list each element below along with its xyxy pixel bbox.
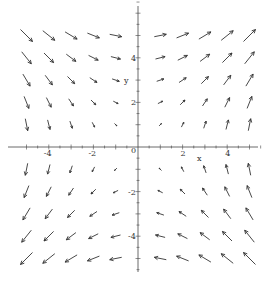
x-tick-label: -4 <box>44 149 52 158</box>
vector-arrow <box>24 163 27 175</box>
vector-arrow <box>158 101 163 103</box>
vector-arrow <box>92 122 94 127</box>
vector-arrow <box>177 33 189 38</box>
vector-arrow <box>247 96 252 108</box>
vector-arrow <box>155 234 165 237</box>
vector-arrow <box>24 96 29 108</box>
vector-arrow <box>66 54 76 61</box>
vector-arrow <box>46 98 51 108</box>
vector-arrow <box>157 79 164 82</box>
vector-arrow <box>91 100 96 105</box>
vector-arrow <box>248 119 251 131</box>
vector-arrow <box>247 163 250 175</box>
vector-arrow <box>158 190 163 192</box>
vector-arrow <box>45 75 52 85</box>
y-tick-label: 4 <box>131 54 136 63</box>
vector-arrow <box>200 54 210 61</box>
vector-arrow <box>112 79 119 82</box>
vector-arrow <box>202 99 207 106</box>
vector-arrow <box>114 123 116 125</box>
vector-arrow <box>45 209 52 219</box>
vector-arrow <box>90 211 97 216</box>
vector-arrow <box>65 255 77 262</box>
vector-arrow <box>225 98 230 108</box>
vector-arrow <box>69 99 74 106</box>
vector-arrow <box>113 190 118 192</box>
vector-arrow <box>20 29 32 41</box>
vector-arrow <box>155 56 165 59</box>
vector-arrow <box>67 76 74 83</box>
vector-arrow <box>23 74 30 86</box>
x-tick-label: -2 <box>88 149 96 158</box>
vector-arrow <box>47 164 50 174</box>
vector-arrow <box>92 167 94 172</box>
vector-arrow <box>224 75 231 85</box>
vector-arrow <box>203 166 206 173</box>
vector-arrow <box>66 233 76 240</box>
vector-arrow <box>24 186 29 198</box>
vector-arrow <box>199 32 211 39</box>
vector-arrow <box>243 29 255 41</box>
vector-arrow <box>87 33 99 38</box>
vector-arrow <box>200 233 210 240</box>
vector-arrow <box>110 34 122 37</box>
vector-arrow <box>178 55 188 60</box>
vector-arrow <box>22 230 32 242</box>
vector-arrow <box>247 186 252 198</box>
vector-arrow <box>225 187 230 197</box>
vector-arrow <box>245 52 255 64</box>
vector-field-plot: x y 0 -4-224-4-224 <box>0 0 271 286</box>
vector-arrow <box>222 231 232 241</box>
vector-arrow <box>177 256 189 261</box>
vector-arrow <box>87 256 99 261</box>
x-axis-label: x <box>197 154 202 163</box>
vector-arrow <box>246 74 253 86</box>
x-tick-label: 2 <box>181 149 186 158</box>
vector-arrow <box>154 256 166 259</box>
vector-arrow <box>246 208 253 220</box>
x-tick-label: 4 <box>225 149 230 158</box>
y-axis-label: y <box>123 76 129 85</box>
vector-arrow <box>70 121 73 128</box>
vector-arrow <box>224 209 231 219</box>
vector-arrow <box>180 189 185 194</box>
vector-arrow <box>201 76 208 83</box>
vector-arrow <box>245 230 255 242</box>
vector-arrow <box>199 255 211 262</box>
vector-arrow <box>201 210 208 217</box>
vector-arrow <box>202 188 207 195</box>
vector-arrow <box>221 31 233 41</box>
vector-arrow <box>110 257 122 260</box>
vector-arrow <box>226 120 229 130</box>
vector-arrow <box>25 119 28 131</box>
vector-arrow <box>243 252 255 264</box>
vector-arrow <box>67 210 74 217</box>
vector-arrow <box>20 252 32 264</box>
vector-arrow <box>46 187 51 197</box>
vector-arrow <box>44 53 54 63</box>
vector-arrow <box>204 121 207 128</box>
vector-arrow <box>65 32 77 39</box>
vector-arrow <box>112 213 119 216</box>
vector-arrow <box>180 100 185 105</box>
vector-arrow <box>48 120 51 130</box>
vector-arrow <box>225 164 228 174</box>
vector-arrow <box>43 31 55 41</box>
vector-arrow <box>23 208 30 220</box>
vector-arrow <box>89 234 99 239</box>
vector-arrow <box>70 166 73 173</box>
vector-arrow <box>69 188 74 195</box>
origin-label: 0 <box>131 146 136 155</box>
vector-arrow <box>222 53 232 63</box>
vector-arrow <box>114 168 116 170</box>
vector-arrow <box>221 254 233 264</box>
vector-arrow <box>89 55 99 60</box>
vector-arrow <box>179 211 186 216</box>
vector-arrow <box>91 189 96 194</box>
y-tick-label: 2 <box>131 98 136 107</box>
vector-arrow <box>159 168 161 170</box>
vector-arrow <box>181 167 183 172</box>
vector-arrow <box>178 234 188 239</box>
vector-arrow <box>159 123 161 125</box>
vector-arrow <box>154 33 166 36</box>
